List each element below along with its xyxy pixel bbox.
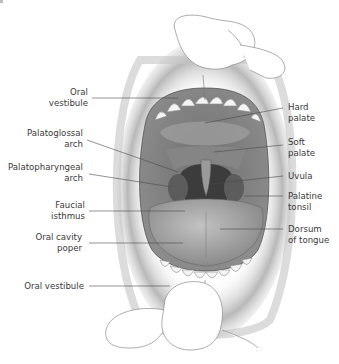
label-faucial-isthmus: Faucial isthmus [51, 200, 85, 221]
label-dorsum-of-tongue: Dorsum of tongue [288, 224, 329, 245]
label-oral-vestibule-upper: Oral vestibule [49, 87, 88, 108]
label-hard-palate: Hard palate [288, 102, 315, 123]
label-palatoglossal-arch: Palatoglossal arch [27, 128, 83, 149]
label-oral-vestibule-lower: Oral vestibule [24, 281, 84, 292]
label-palatopharyngeal-arch: Palatopharyngeal arch [8, 162, 83, 183]
label-soft-palate: Soft palate [288, 137, 315, 158]
label-oral-cavity-proper: Oral cavity poper [35, 232, 82, 253]
label-uvula: Uvula [288, 171, 312, 182]
label-palatine-tonsil: Palatine tonsil [288, 191, 322, 212]
